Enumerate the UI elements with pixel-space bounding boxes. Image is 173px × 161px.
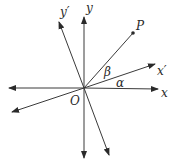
label-y: y <box>85 1 93 15</box>
label-p: P <box>135 19 145 33</box>
label-beta: β <box>103 65 111 79</box>
label-origin: O <box>70 94 80 108</box>
point-p <box>131 31 135 35</box>
y-prime-axis-negative <box>84 88 109 155</box>
label-x: x <box>161 86 168 100</box>
rotated-axes-diagram: x y x′ y′ P O α β <box>0 0 173 161</box>
label-y-prime: y′ <box>59 5 70 19</box>
y-prime-axis <box>59 22 84 88</box>
label-x-prime: x′ <box>157 64 167 78</box>
label-alpha: α <box>116 76 124 90</box>
